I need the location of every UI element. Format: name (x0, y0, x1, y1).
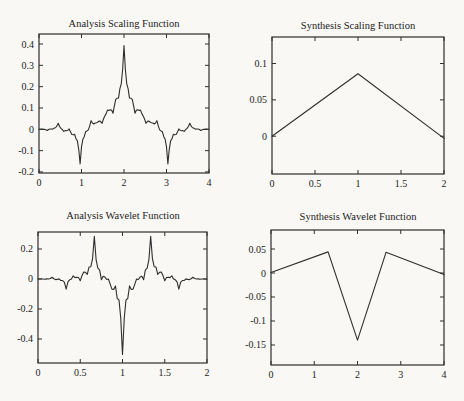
x-tick-label: 4 (442, 369, 447, 380)
title-synthesis-scaling-function: Synthesis Scaling Function (301, 20, 416, 31)
wavelet-figure: 012340.40.30.20.10-0.1-0.200.511.520.10.… (0, 0, 464, 401)
x-tick-label: 1.5 (395, 178, 408, 189)
x-tick-label: 1 (356, 178, 361, 189)
y-tick-label: 0.2 (21, 243, 34, 254)
tick-marks (271, 230, 444, 365)
title-analysis-wavelet-function: Analysis Wavelet Function (66, 210, 180, 221)
y-tick-label: 0.05 (250, 94, 268, 105)
plot-synthesis-scaling-function: 00.511.520.10.050 (250, 37, 447, 189)
y-tick-label: -0.05 (245, 291, 266, 302)
y-tick-label: 0.3 (22, 60, 35, 71)
x-tick-label: 1 (312, 369, 317, 380)
x-tick-label: 2 (205, 367, 210, 378)
x-tick-label: 0 (37, 177, 42, 188)
x-tick-label: 1 (79, 177, 84, 188)
x-tick-label: 2 (442, 178, 447, 189)
plot-synthesis-wavelet-function: 012340.050-0.05-0.1-0.15 (245, 230, 446, 380)
x-tick-label: 1.5 (159, 367, 172, 378)
title-synthesis-wavelet-function: Synthesis Wavelet Function (300, 211, 418, 222)
x-tick-label: 0 (269, 369, 274, 380)
x-tick-label: 4 (207, 177, 212, 188)
y-tick-label: 0.1 (22, 102, 35, 113)
plots-layer: 012340.40.30.20.10-0.1-0.200.511.520.10.… (17, 34, 446, 380)
x-tick-label: 0 (270, 178, 275, 189)
axes-box (271, 230, 444, 365)
axes-box (272, 37, 444, 174)
y-tick-label: -0.1 (250, 315, 266, 326)
plot-analysis-wavelet-function: 00.511.520.20-0.2-0.4 (17, 232, 209, 378)
x-tick-label: 3 (398, 369, 403, 380)
x-tick-label: 1 (120, 367, 125, 378)
synthesis-wavelet-curve (271, 252, 444, 340)
y-tick-label: -0.2 (17, 303, 33, 314)
wavelet-figure-canvas: 012340.40.30.20.10-0.1-0.200.511.520.10.… (0, 0, 464, 401)
x-tick-label: 0.5 (74, 367, 87, 378)
plot-analysis-scaling-function: 012340.40.30.20.10-0.1-0.2 (18, 34, 211, 188)
x-tick-label: 3 (164, 177, 169, 188)
title-analysis-scaling-function: Analysis Scaling Function (69, 18, 181, 29)
tick-marks (272, 37, 444, 174)
y-tick-label: 0 (262, 131, 267, 142)
y-tick-label: 0 (261, 268, 266, 279)
synthesis-scaling-curve (272, 74, 444, 139)
y-tick-label: -0.4 (17, 333, 33, 344)
y-tick-label: 0.2 (22, 81, 35, 92)
y-tick-label: -0.15 (245, 339, 266, 350)
x-tick-label: 0 (36, 367, 41, 378)
y-tick-label: 0.05 (249, 244, 267, 255)
x-tick-label: 0.5 (309, 178, 322, 189)
y-tick-label: -0.2 (18, 166, 34, 177)
x-tick-label: 2 (122, 177, 127, 188)
y-tick-label: 0.1 (255, 58, 268, 69)
y-tick-label: 0 (29, 124, 34, 135)
analysis-scaling-curve (39, 46, 209, 164)
y-tick-label: 0 (28, 273, 33, 284)
y-tick-label: -0.1 (18, 145, 34, 156)
y-tick-label: 0.4 (22, 39, 35, 50)
x-tick-label: 2 (355, 369, 360, 380)
analysis-wavelet-curve (38, 236, 207, 354)
